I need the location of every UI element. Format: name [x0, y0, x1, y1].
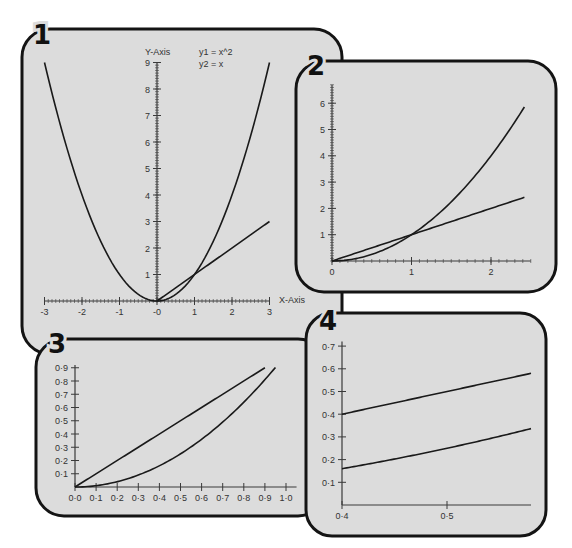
x-tick-label: 0·5	[174, 493, 187, 503]
y-tick-label: 0·4	[322, 410, 335, 420]
x-tick-label: 0·4	[335, 511, 348, 521]
x-tick-label: 0·6	[195, 493, 208, 503]
y-tick-label: 0·8	[55, 377, 68, 387]
y-tick-label: 0·1	[322, 478, 335, 488]
x-tick-label: 0·4	[153, 493, 166, 503]
x-tick-label: 1	[409, 267, 414, 277]
x-axis-title: X-Axis	[279, 295, 306, 305]
y-tick-label: 0·1	[55, 469, 68, 479]
y-tick-label: 1	[320, 230, 325, 240]
y-tick-label: 0·6	[322, 364, 335, 374]
y-tick-label: 5	[145, 164, 150, 174]
y-tick-label: 0·3	[322, 432, 335, 442]
y-tick-label: 2	[320, 204, 325, 214]
figure-stage: -3-2-1-0123123456789X-AxisY-Axisy1 = x^2…	[0, 0, 572, 548]
x-tick-label: 0·8	[237, 493, 250, 503]
y-tick-label: 4	[145, 191, 150, 201]
panel-4-zoom: 0·40·50·10·20·30·40·50·60·744	[306, 306, 546, 536]
y-tick-label: 0·5	[55, 416, 68, 426]
y-tick-label: 3	[320, 178, 325, 188]
x-tick-label: 0·1	[90, 493, 103, 503]
y-tick-label: 0·5	[322, 387, 335, 397]
zoom-sequence-figure: -3-2-1-0123123456789X-AxisY-Axisy1 = x^2…	[0, 0, 572, 548]
panel-number: 1	[33, 20, 51, 50]
legend-entry: y1 = x^2	[199, 47, 233, 57]
panel-number: 3	[48, 329, 66, 359]
x-tick-label: 1	[192, 307, 197, 317]
x-tick-label: 2	[229, 307, 234, 317]
x-tick-label: 0·2	[111, 493, 124, 503]
panel-3-zoom: 0·00·10·20·30·40·50·60·70·80·91·00·10·20…	[36, 329, 326, 516]
y-tick-label: 0·9	[55, 363, 68, 373]
y-tick-label: 7	[145, 111, 150, 121]
y-tick-label: 0·2	[55, 456, 68, 466]
panel-number: 2	[307, 51, 325, 81]
x-tick-label: 0·3	[132, 493, 145, 503]
legend-entry: y2 = x	[199, 59, 224, 69]
y-tick-label: 8	[145, 85, 150, 95]
x-tick-label: -2	[78, 307, 86, 317]
x-tick-label: 0·7	[216, 493, 229, 503]
x-tick-label: 0	[329, 267, 334, 277]
panel-frame	[22, 29, 342, 354]
x-tick-label: 0·0	[68, 493, 81, 503]
y-tick-label: 4	[320, 151, 325, 161]
x-tick-label: -3	[40, 307, 48, 317]
y-tick-label: 0·7	[55, 390, 68, 400]
panel-2-zoom: 01212345622	[296, 51, 556, 292]
y-tick-label: 2	[145, 244, 150, 254]
y-tick-label: 0·7	[322, 342, 335, 352]
x-tick-label: -0	[153, 307, 161, 317]
y-tick-label: 1	[145, 270, 150, 280]
y-tick-label: 9	[145, 58, 150, 68]
y-tick-label: 3	[145, 217, 150, 227]
y-tick-label: 6	[320, 99, 325, 109]
y-tick-label: 0·6	[55, 403, 68, 413]
y-axis-title: Y-Axis	[145, 47, 171, 57]
x-tick-label: 2	[488, 267, 493, 277]
y-tick-label: 6	[145, 138, 150, 148]
x-tick-label: 0·9	[258, 493, 271, 503]
panel-number: 4	[319, 306, 337, 336]
y-tick-label: 0·3	[55, 443, 68, 453]
x-tick-label: 0·5	[440, 511, 453, 521]
y-tick-label: 0·2	[322, 455, 335, 465]
y-tick-label: 0·4	[55, 430, 68, 440]
x-tick-label: -1	[115, 307, 123, 317]
y-tick-label: 5	[320, 125, 325, 135]
panel-1-full-view: -3-2-1-0123123456789X-AxisY-Axisy1 = x^2…	[22, 20, 342, 354]
panel-frame	[296, 61, 556, 292]
x-tick-label: 3	[267, 307, 272, 317]
x-tick-label: 1·0	[279, 493, 292, 503]
